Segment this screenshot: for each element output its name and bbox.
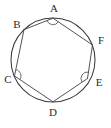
vertex-label-f: F [98,34,104,46]
angle-arcs-layer [16,21,89,83]
hexagon-edge-cd [15,76,54,102]
vertex-label-d: D [49,106,57,118]
hexagon-edge-ef [88,45,93,79]
vertex-label-a: A [50,2,58,14]
hexagon-edge-bc [15,30,25,76]
vertex-label-b: B [13,18,20,30]
hexagon-edges-layer [15,18,93,102]
vertex-label-c: C [4,73,11,85]
geometry-figure: ABCDEF [0,0,111,128]
vertex-label-e: E [96,76,103,88]
geometry-canvas: ABCDEF [0,0,111,128]
hexagon-edge-fa [53,18,93,45]
hexagon-edge-ab [24,18,53,29]
